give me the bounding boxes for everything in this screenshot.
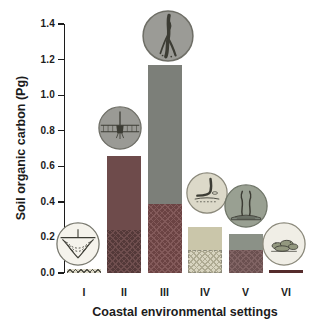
y-tick-label: 1.2: [29, 55, 55, 65]
bar-IV-hatched-segment: [188, 250, 222, 273]
bar-II-solid-segment: [107, 156, 141, 231]
bar-V-solid-segment: [229, 234, 263, 250]
y-tick: [58, 166, 64, 167]
bar-III-solid-segment: [148, 65, 182, 204]
x-category-label-V: V: [229, 286, 263, 298]
y-tick: [58, 272, 64, 273]
x-category-label-III: III: [148, 286, 182, 298]
x-category-label-IV: IV: [188, 286, 222, 298]
bar-VI-segment: [269, 270, 303, 273]
y-axis-title: Soil organic carbon (Pg): [14, 68, 28, 228]
y-tick-label: 0.8: [29, 126, 55, 136]
river-delta-icon: [142, 10, 194, 62]
x-axis-title: Coastal environmental settings: [64, 305, 306, 319]
bar-IV-solid-segment: [188, 227, 222, 250]
x-category-label-VI: VI: [269, 286, 303, 298]
bar-III-hatched-segment: [148, 204, 182, 273]
y-tick-label: 1.4: [29, 19, 55, 29]
y-tick-label: 0.0: [29, 268, 55, 278]
bar-I-hatched-segment: [67, 269, 101, 273]
y-tick: [58, 201, 64, 202]
y-tick: [58, 130, 64, 131]
fjord-cross-section-icon: [56, 222, 100, 266]
lagoon-icon: [186, 172, 228, 214]
y-tick-label: 0.2: [29, 232, 55, 242]
y-tick-label: 0.4: [29, 197, 55, 207]
bar-II-hatched-segment: [107, 230, 141, 273]
y-tick: [58, 59, 64, 60]
y-tick: [58, 95, 64, 96]
soil-organic-carbon-bar-chart: Soil organic carbon (Pg) Coastal environ…: [0, 0, 316, 328]
estuary-icon: [98, 106, 142, 150]
y-tick-label: 1.0: [29, 90, 55, 100]
x-category-label-II: II: [107, 286, 141, 298]
y-tick-label: 0.6: [29, 161, 55, 171]
y-tick: [58, 23, 64, 24]
bar-V-hatched-segment: [229, 250, 263, 273]
x-category-label-I: I: [67, 286, 101, 298]
reef-rocks-icon: [262, 222, 306, 266]
